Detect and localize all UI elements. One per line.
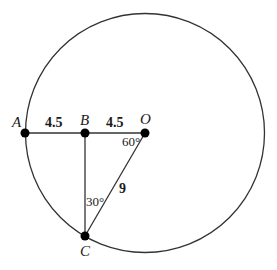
geometry-diagram: A B O C 4.5 4.5 9 60° 30° xyxy=(0,0,277,270)
label-A: A xyxy=(11,114,22,130)
angle-O: 60° xyxy=(122,134,140,149)
label-O: O xyxy=(140,111,151,127)
length-AB: 4.5 xyxy=(45,115,63,130)
angle-C: 30° xyxy=(86,194,104,209)
point-A xyxy=(21,129,30,138)
label-B: B xyxy=(80,112,89,128)
point-O xyxy=(141,129,150,138)
point-C xyxy=(81,232,90,241)
length-BO: 4.5 xyxy=(106,115,124,130)
label-C: C xyxy=(80,243,91,259)
point-B xyxy=(81,129,90,138)
length-OC: 9 xyxy=(119,181,126,196)
